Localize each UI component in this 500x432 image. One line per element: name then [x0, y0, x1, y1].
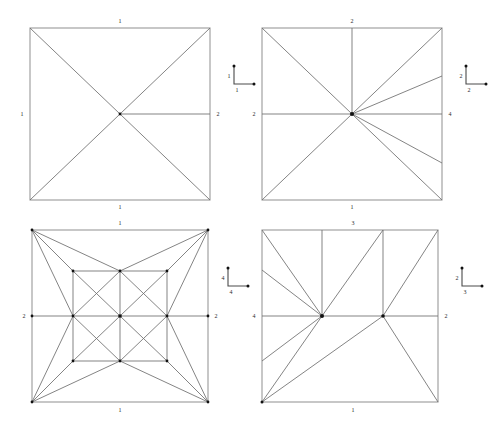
edge-label-right: 2 — [215, 313, 218, 319]
axis-dot-horizontal — [481, 285, 484, 288]
mesh-figure-canvas: 1 1 1 2 1 1 2 1 2 4 — [0, 0, 500, 432]
mesh-edge — [32, 230, 120, 271]
axis-dot-horizontal — [485, 83, 488, 86]
mesh-edge — [167, 361, 208, 402]
axis-label-horizontal: 3 — [464, 289, 467, 295]
edge-label-left: 4 — [253, 313, 256, 319]
mesh-edge — [32, 230, 73, 316]
mesh-panel-top-right: 2 1 2 4 2 2 — [250, 0, 500, 216]
edge-label-right: 4 — [449, 111, 452, 117]
edge-label-top: 2 — [351, 18, 354, 24]
mesh-edge — [262, 230, 322, 316]
edge-label-bottom: 1 — [119, 407, 122, 413]
mesh-edge — [352, 28, 442, 114]
mesh-edge — [262, 270, 322, 316]
mesh-node — [118, 314, 122, 318]
mesh-edge — [32, 361, 73, 402]
mesh-node-hub — [381, 314, 385, 318]
mesh-edge — [262, 316, 322, 361]
axis-dot-vertical — [465, 65, 468, 68]
axis-label-horizontal: 2 — [468, 87, 471, 93]
mesh-edge — [262, 316, 322, 402]
mesh-node-hub — [350, 112, 354, 116]
edge-label-bottom: 1 — [119, 204, 122, 210]
mesh-edge — [262, 316, 383, 402]
axis-corner — [462, 268, 482, 286]
mesh-node — [166, 360, 169, 363]
mesh-edge — [352, 114, 442, 163]
mesh-edge — [167, 230, 208, 271]
mesh-node — [72, 315, 75, 318]
axis-indicator-bottom-right — [456, 264, 490, 294]
mesh-drawing-bottom-left — [0, 216, 250, 432]
axis-label-vertical: 1 — [228, 73, 231, 79]
mesh-edge — [167, 230, 208, 316]
mesh-node — [261, 401, 264, 404]
axis-corner — [466, 66, 486, 84]
mesh-edge — [32, 361, 120, 402]
edge-label-top: 1 — [119, 220, 122, 226]
mesh-node — [119, 360, 122, 363]
mesh-node — [166, 270, 169, 273]
mesh-edge — [120, 230, 208, 271]
edge-label-right: 2 — [445, 313, 448, 319]
mesh-node — [207, 401, 210, 404]
axis-dot-vertical — [233, 65, 236, 68]
mesh-node — [207, 229, 210, 232]
edge-label-left: 2 — [23, 313, 26, 319]
mesh-node — [31, 401, 34, 404]
mesh-node — [72, 270, 75, 273]
mesh-drawing-top-right — [250, 0, 500, 216]
mesh-edge — [120, 361, 208, 402]
mesh-edge — [262, 28, 352, 114]
mesh-node — [119, 113, 122, 116]
axis-corner — [228, 268, 248, 286]
axis-label-vertical: 4 — [222, 275, 225, 281]
mesh-edge — [32, 230, 73, 271]
axis-dot-vertical — [461, 267, 464, 270]
mesh-node — [166, 315, 169, 318]
mesh-node — [31, 229, 34, 232]
edge-label-right: 2 — [217, 111, 220, 117]
axis-label-horizontal: 1 — [236, 87, 239, 93]
edge-label-top: 1 — [119, 18, 122, 24]
mesh-panel-bottom-right: 3 1 4 2 2 3 — [250, 216, 500, 432]
axis-dot-vertical — [227, 267, 230, 270]
mesh-edge — [262, 114, 352, 200]
edge-label-bottom: 1 — [351, 204, 354, 210]
mesh-node — [31, 315, 34, 318]
mesh-edge — [167, 316, 208, 402]
edge-label-bottom: 1 — [352, 407, 355, 413]
mesh-node-hub — [320, 314, 324, 318]
mesh-edge — [383, 316, 438, 402]
mesh-drawing-top-left — [0, 0, 250, 216]
mesh-edge — [383, 230, 438, 316]
axis-label-vertical: 2 — [456, 275, 459, 281]
mesh-edge — [352, 114, 442, 200]
axis-label-horizontal: 4 — [230, 289, 233, 295]
axis-indicator-top-right — [460, 62, 494, 92]
axis-label-vertical: 2 — [460, 73, 463, 79]
edge-label-top: 3 — [352, 220, 355, 226]
mesh-drawing-bottom-right — [250, 216, 500, 432]
edge-label-left: 1 — [21, 111, 24, 117]
mesh-node — [119, 270, 122, 273]
mesh-edge — [32, 316, 73, 402]
mesh-node — [207, 315, 210, 318]
mesh-panel-bottom-left: 1 1 2 2 4 4 — [0, 216, 250, 432]
edge-label-left: 2 — [253, 111, 256, 117]
mesh-panel-top-left: 1 1 1 2 1 1 — [0, 0, 250, 216]
mesh-edge — [322, 230, 383, 316]
mesh-node — [72, 360, 75, 363]
mesh-edge — [352, 76, 442, 114]
